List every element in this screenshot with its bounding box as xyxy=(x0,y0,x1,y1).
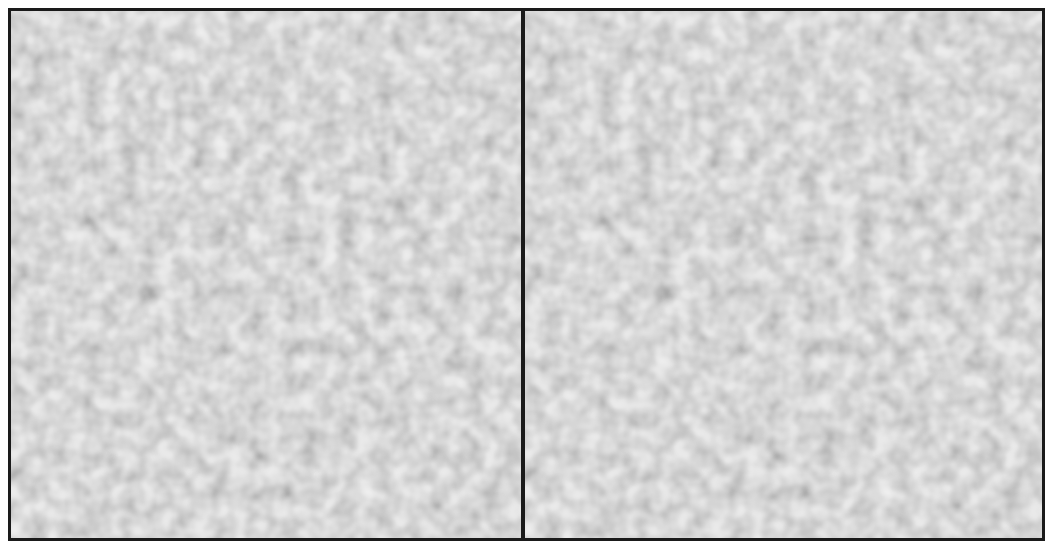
left-texture-panel xyxy=(11,11,521,538)
figure-caption xyxy=(0,546,1053,556)
stereo-pair-frame xyxy=(8,8,1045,541)
right-texture-panel xyxy=(525,11,1042,538)
